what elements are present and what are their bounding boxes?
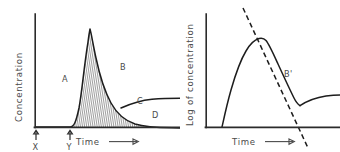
curve-label-c: C: [137, 96, 143, 106]
marker-label-y: Y: [66, 142, 73, 152]
marker-label-x: X: [33, 142, 39, 152]
curve-label-d: D: [152, 110, 159, 120]
marker-x-arrow-icon: [34, 130, 39, 140]
right-y-axis-label: Log of concentration: [185, 23, 195, 126]
right-time-arrow-icon: [265, 139, 294, 144]
panel-concentration-vs-time: Concentration Time A B C D X Y: [0, 0, 180, 152]
curve-label-b: B: [120, 62, 126, 72]
figure-container: Concentration Time A B C D X Y: [0, 0, 340, 152]
left-y-axis-label: Concentration: [14, 52, 24, 122]
curve-label-b-prime: B': [284, 69, 293, 79]
log-concentration-curve: [222, 38, 300, 127]
terminal-branch-curve: [300, 95, 340, 106]
panel-log-concentration-vs-time: Log of concentration Time B': [180, 0, 340, 152]
left-x-axis-label: Time: [75, 137, 100, 147]
branch-plateau-curve: [121, 98, 180, 108]
marker-y-arrow-icon: [68, 130, 73, 140]
left-panel-svg: Concentration Time A B C D X Y: [0, 0, 180, 152]
right-panel-svg: Log of concentration Time B': [180, 0, 340, 152]
curve-label-a: A: [62, 74, 68, 84]
left-time-arrow-icon: [109, 139, 138, 144]
right-x-axis-label: Time: [231, 137, 256, 147]
